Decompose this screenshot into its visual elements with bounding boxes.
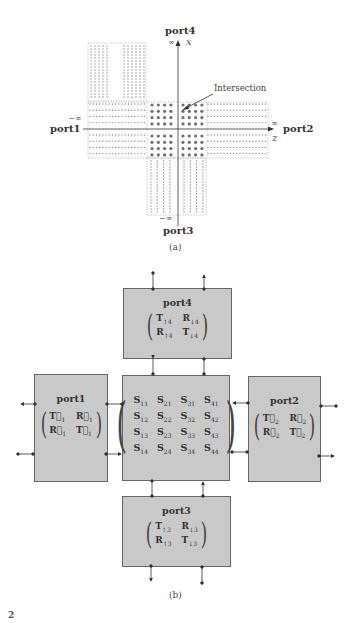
s-matrix-cell: S32 — [181, 410, 196, 423]
s-matrix-cell: S12 — [133, 410, 148, 423]
s-matrix-cell: S22 — [157, 410, 172, 423]
port4-box-title: port4 — [124, 297, 231, 308]
page-footer-number: 2 — [8, 610, 14, 620]
s-matrix-cell: S11 — [133, 394, 148, 407]
port1-matrix: ( T⃗1 R⃗1 R⃖1 T⃖1 ) — [35, 409, 107, 439]
matrix-cell: T⃖1 — [76, 425, 93, 437]
port1-label: port1 — [50, 123, 81, 134]
port3-box-title: port3 — [123, 505, 230, 516]
infinity-top-label: ∞ — [168, 38, 175, 47]
infinity-right-label: ∞ — [271, 119, 278, 128]
s-matrix-cell: S14 — [133, 442, 148, 455]
matrix-cell: R⃖2 — [263, 427, 280, 439]
s-matrix-cell: S44 — [204, 442, 219, 455]
right-paren: ) — [200, 519, 206, 549]
matrix-cell: R⃗2 — [290, 413, 307, 425]
caption-b: (b) — [169, 590, 182, 600]
intersection-annotation: Intersection — [214, 83, 266, 93]
matrix-cell: T↑4 — [156, 313, 172, 325]
port2-label: port2 — [283, 123, 314, 134]
s-matrix-cell: S21 — [157, 394, 172, 407]
s-matrix-cell: S41 — [204, 394, 219, 407]
matrix-cell: T↓3 — [182, 535, 198, 547]
port2-matrix: ( T⃗2 R⃗2 R⃖2 T⃖2 ) — [249, 411, 320, 441]
left-paren: ( — [40, 409, 46, 439]
matrix-cell: T↑3 — [155, 521, 171, 533]
port2-box-title: port2 — [249, 395, 320, 406]
matrix-cell: R↓4 — [183, 313, 199, 325]
x-axis-label: x — [186, 36, 192, 47]
port3-matrix: ( T↑3 R↓3 R↑3 T↓3 ) — [123, 519, 230, 549]
port3-label: port3 — [163, 225, 194, 236]
s-matrix-cell: S43 — [204, 426, 219, 439]
matrix-cell: T⃖2 — [290, 427, 307, 439]
left-paren: ( — [146, 519, 152, 549]
port1-box: port1 ( T⃗1 R⃗1 R⃖1 T⃖1 ) — [34, 374, 108, 482]
right-paren: ) — [95, 409, 101, 439]
infinity-left-label: −∞ — [68, 114, 81, 123]
s-matrix-cell: S34 — [181, 442, 196, 455]
s-matrix-cell: S23 — [157, 426, 172, 439]
port4-label: port4 — [165, 25, 196, 36]
port1-box-title: port1 — [35, 393, 107, 404]
port2-box: port2 ( T⃗2 R⃗2 R⃖2 T⃖2 ) — [248, 376, 321, 482]
scattering-matrix-box: ( S11S21S31S41S12S22S32S42S13S23S33S43S1… — [122, 375, 230, 481]
right-paren: ) — [225, 394, 236, 454]
caption-a: (a) — [169, 242, 181, 252]
infinity-bottom-label: −∞ — [159, 214, 172, 223]
right-paren: ) — [309, 411, 315, 441]
matrix-cell: R⃗1 — [76, 411, 93, 423]
z-axis-label: z — [272, 132, 277, 143]
left-paren: ( — [116, 394, 127, 454]
s-matrix-grid: S11S21S31S41S12S22S32S42S13S23S33S43S14S… — [133, 394, 218, 455]
port3-box: port3 ( T↑3 R↓3 R↑3 T↓3 ) — [122, 496, 231, 567]
matrix-cell: T↓4 — [183, 327, 199, 339]
matrix-cell: R↓3 — [182, 521, 198, 533]
left-paren: ( — [254, 411, 260, 441]
port4-box: port4 ( T↑4 R↓4 R↑4 T↓4 ) — [123, 288, 232, 359]
port4-matrix: ( T↑4 R↓4 R↑4 T↓4 ) — [124, 311, 231, 341]
s-matrix-cell: S31 — [181, 394, 196, 407]
s-matrix-cell: S24 — [157, 442, 172, 455]
matrix-cell: T⃗1 — [49, 411, 66, 423]
s-matrix-cell: S33 — [181, 426, 196, 439]
left-paren: ( — [147, 311, 153, 341]
matrix-cell: R↑4 — [156, 327, 172, 339]
matrix-cell: T⃗2 — [263, 413, 280, 425]
s-matrix-cell: S42 — [204, 410, 219, 423]
matrix-cell: R⃖1 — [49, 425, 66, 437]
matrix-cell: R↑3 — [155, 535, 171, 547]
s-matrix-cell: S13 — [133, 426, 148, 439]
s-matrix: ( S11S21S31S41S12S22S32S42S13S23S33S43S1… — [123, 394, 229, 455]
right-paren: ) — [201, 311, 207, 341]
